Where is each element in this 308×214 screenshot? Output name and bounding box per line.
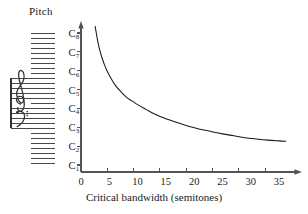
x-tick-label-0: 0 xyxy=(78,176,83,187)
critical-bandwidth-figure: Pitch C1C2C3C4C5C6C7C8 05101520253035 Cr… xyxy=(0,0,308,214)
x-tick-label-20: 20 xyxy=(189,176,200,187)
x-axis-tick-labels: 05101520253035 xyxy=(0,0,308,214)
x-tick-label-5: 5 xyxy=(107,176,112,187)
x-tick-label-25: 25 xyxy=(217,176,228,187)
x-tick-label-10: 10 xyxy=(132,176,143,187)
x-tick-label-15: 15 xyxy=(161,176,172,187)
x-tick-label-35: 35 xyxy=(274,176,285,187)
x-axis-title: Critical bandwidth (semitones) xyxy=(0,192,308,203)
x-tick-label-30: 30 xyxy=(245,176,256,187)
